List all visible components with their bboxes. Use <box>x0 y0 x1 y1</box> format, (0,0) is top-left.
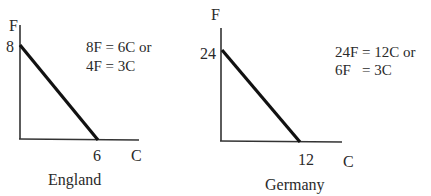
germany-y-intercept-label: 24 <box>200 45 216 62</box>
england-y-axis-label: F <box>9 17 18 34</box>
germany-x-axis <box>220 141 342 142</box>
ppf-diagram: F 8 6 C 8F = 6C or 4F = 3C England F 24 … <box>0 0 431 196</box>
england-equation-line1: 8F = 6C or <box>86 39 152 55</box>
germany-panel: F 24 12 C 24F = 12C or 6F = 3C Germany <box>200 6 416 194</box>
germany-equation-line2: 6F = 3C <box>335 62 392 78</box>
england-x-axis-label: C <box>131 147 142 164</box>
england-x-axis <box>19 139 139 140</box>
england-equation-line2: 4F = 3C <box>86 58 135 74</box>
england-panel: F 8 6 C 8F = 6C or 4F = 3C England <box>6 17 152 189</box>
england-x-intercept-label: 6 <box>93 147 101 164</box>
england-country-label: England <box>48 171 101 189</box>
germany-ppf-line <box>222 50 300 142</box>
germany-y-axis-label: F <box>211 6 220 23</box>
germany-country-label: Germany <box>265 176 325 194</box>
germany-x-axis-label: C <box>343 153 354 170</box>
england-y-intercept-label: 8 <box>6 38 14 55</box>
germany-equation-line1: 24F = 12C or <box>335 44 416 60</box>
germany-x-intercept-label: 12 <box>298 151 314 168</box>
